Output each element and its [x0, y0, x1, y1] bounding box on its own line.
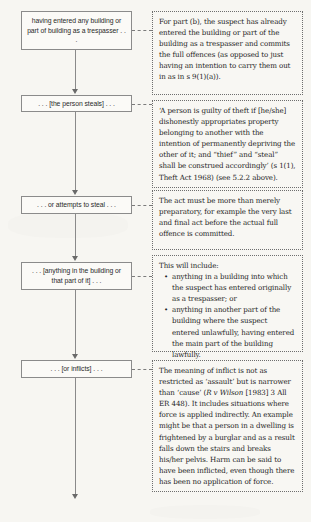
flow-step-label-5: . . . [or inflicts] . . . — [26, 364, 127, 374]
connector-box5-end — [75, 378, 76, 495]
arrowhead-terminal — [72, 494, 78, 499]
flow-step-box-4[interactable]: . . . [anything in the building or that … — [21, 262, 132, 290]
link-box2-panel2 — [132, 104, 152, 105]
arrowhead-to-box2 — [72, 89, 78, 94]
annotation-text-2: ‘A person is guilty of theft if [he/she]… — [159, 105, 296, 183]
arrowhead-to-box3 — [72, 190, 78, 195]
flow-step-box-2[interactable]: . . . [the person steals] . . . — [21, 95, 132, 112]
arrowhead-to-box4 — [72, 256, 78, 261]
annotation-panel-5: The meaning of inflict is not as restric… — [152, 360, 303, 492]
link-box5-panel5 — [132, 369, 152, 370]
link-box1-panel1 — [132, 30, 152, 31]
annotation-bullet-list-4: anything in a building into which the su… — [159, 271, 296, 360]
annotation-panel-3: The act must be more than merely prepara… — [152, 190, 303, 250]
case-citation: R v Wilson — [206, 388, 243, 397]
link-box3-panel3 — [132, 205, 152, 206]
flow-step-label-3: . . . or attempts to steal . . . — [26, 200, 127, 210]
connector-box2-box3 — [75, 112, 76, 191]
flowchart-canvas: having entered any building or part of b… — [0, 0, 311, 522]
scan-artifact — [8, 212, 128, 238]
flow-step-label-2: . . . [the person steals] . . . — [26, 99, 127, 109]
connector-box1-box2 — [75, 50, 76, 90]
list-item: anything in a building into which the su… — [167, 271, 296, 304]
flow-step-box-1[interactable]: having entered any building or part of b… — [21, 11, 132, 50]
list-item: anything in another part of the building… — [167, 304, 296, 359]
annotation-text-3: The act must be more than merely prepara… — [159, 195, 296, 239]
annotation-text-5-part-b: [1983] 3 All ER 448). It includes situat… — [159, 388, 295, 486]
scan-artifact — [150, 505, 260, 519]
annotation-panel-4: This will include: anything in a buildin… — [152, 255, 303, 352]
annotation-text-1: For part (b), the suspect has already en… — [159, 16, 296, 83]
connector-box4-box5 — [75, 290, 76, 355]
annotation-panel-2: ‘A person is guilty of theft if [he/she]… — [152, 100, 303, 188]
annotation-text-5: The meaning of inflict is not as restric… — [159, 365, 296, 487]
flow-step-box-3[interactable]: . . . or attempts to steal . . . — [21, 196, 132, 214]
annotation-panel-1: For part (b), the suspect has already en… — [152, 11, 303, 95]
annotation-intro-4: This will include: — [159, 260, 296, 271]
link-box4-panel4 — [132, 276, 152, 277]
flow-step-label-4: . . . [anything in the building or that … — [26, 266, 127, 285]
arrowhead-to-box5 — [72, 354, 78, 359]
flow-step-box-5[interactable]: . . . [or inflicts] . . . — [21, 360, 132, 378]
connector-box3-box4 — [75, 214, 76, 257]
flow-step-label-1: having entered any building or part of b… — [26, 16, 127, 45]
